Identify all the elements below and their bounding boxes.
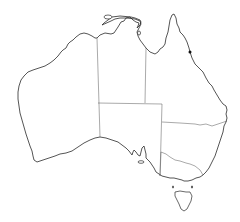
australia-map [0, 0, 240, 222]
groote-eylandt [138, 31, 141, 35]
mainland-coastline [18, 14, 227, 181]
location-marker [189, 51, 192, 54]
king-island [172, 186, 173, 188]
tasmania [175, 191, 192, 211]
kangaroo-island [138, 161, 144, 164]
melville-island [104, 15, 112, 19]
flinders-island [191, 186, 192, 189]
